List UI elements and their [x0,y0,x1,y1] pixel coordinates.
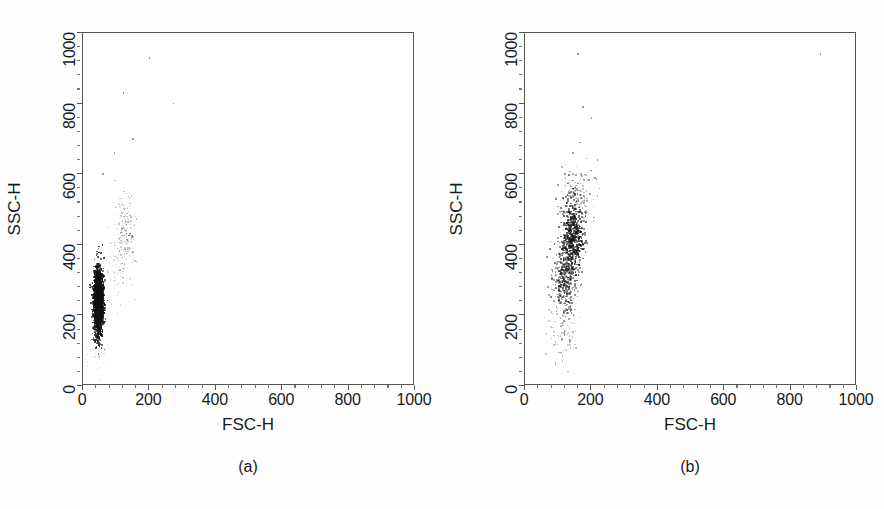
scatter-point [114,224,115,225]
scatter-point [553,335,555,337]
scatter-point [116,242,117,243]
scatter-point [124,256,125,257]
scatter-point [114,180,115,181]
scatter-point [562,360,564,362]
scatter-outlier-point [149,57,151,59]
y-axis-tick-label: 400 [0,235,74,253]
y-axis-tick-label: 1000 [442,23,516,41]
scatter-point [123,191,124,192]
scatter-outlier-point [123,92,125,94]
scatter-point [118,234,119,235]
y-axis-minor-tick [519,201,522,202]
scatter-point [85,358,86,359]
scatter-point [562,247,564,249]
scatter-point [120,272,121,273]
scatter-point [126,216,127,217]
x-axis-minor-tick [162,385,163,388]
y-axis-tick-label-text: 200 [503,314,521,340]
scatter-point [580,285,582,287]
scatter-point [563,332,565,334]
y-axis-minor-tick [77,131,80,132]
x-axis-minor-tick [401,385,402,388]
scatter-point [553,279,555,281]
scatter-point [546,333,548,335]
scatter-point [127,221,128,222]
y-axis-minor-tick [77,230,80,231]
x-axis-minor-tick [361,385,362,388]
scatter-point [585,251,587,253]
panel-caption-b: (b) [524,458,856,476]
x-axis-minor-tick [763,385,764,388]
scatter-point [560,317,562,319]
scatter-point [548,294,550,296]
x-axis-minor-tick [843,385,844,388]
scatter-outlier-point [582,106,584,108]
scatter-point [107,345,108,346]
x-axis-minor-tick [537,385,538,388]
y-axis-minor-tick [519,286,522,287]
y-axis-minor-tick [519,145,522,146]
scatter-point [567,312,569,314]
x-axis-tick [657,385,658,390]
scatter-point [89,287,91,289]
scatter-outlier-point [102,173,104,175]
scatter-point [545,353,547,355]
scatter-point [119,250,120,251]
scatter-point [102,274,104,276]
scatter-point [122,254,123,255]
scatter-point [550,296,552,298]
scatter-point [559,285,561,287]
scatter-point [130,277,131,278]
scatter-point [100,374,101,375]
scatter-point [104,322,106,324]
scatter-point [570,318,572,320]
scatter-outlier-point [577,53,579,55]
scatter-point [118,224,119,225]
scatter-point [118,229,119,230]
scatter-point [99,367,100,368]
scatter-point [567,371,569,373]
x-axis-minor-tick [829,385,830,388]
scatter-point [118,291,119,292]
scatter-point [593,217,595,219]
scatter-point [563,303,565,305]
scatter-point [560,326,562,328]
scatter-point [575,330,577,332]
scatter-point [122,232,123,233]
scatter-point [556,254,558,256]
scatter-point [562,355,564,357]
scatter-point [122,220,123,221]
scatter-point [576,166,578,168]
scatter-point [569,233,571,235]
scatter-point [597,195,599,197]
scatter-point [580,211,582,213]
x-axis-tick [723,385,724,390]
scatter-point [114,256,115,257]
scatter-point [562,213,564,215]
scatter-point [555,198,557,200]
scatter-point [97,290,99,292]
scatter-point [124,249,125,250]
scatter-point [575,271,577,273]
x-axis-tick [524,385,525,390]
scatter-point [580,183,582,185]
scatter-point [121,204,122,205]
panel-caption-a: (a) [82,458,414,476]
scatter-point [577,296,579,298]
scatter-point [99,317,101,319]
scatter-point [571,180,573,182]
scatter-point [127,207,128,208]
scatter-point [575,174,577,176]
scatter-point [560,278,562,280]
scatter-point [104,349,106,351]
scatter-point [131,237,132,238]
scatter-point [561,255,563,257]
scatter-point [94,358,95,359]
scatter-point [567,301,569,303]
scatter-point [124,326,125,327]
scatter-point [557,237,559,239]
y-axis-tick-label-text: 800 [61,103,79,129]
x-axis-tick-label: 1000 [824,391,884,409]
scatter-point [583,195,585,197]
y-axis-tick-label-text: 400 [61,244,79,270]
